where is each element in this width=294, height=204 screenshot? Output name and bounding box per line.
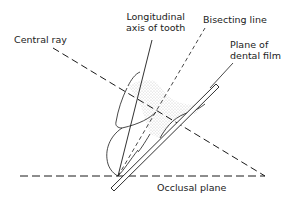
dental-film-label-line2: dental film xyxy=(230,50,281,61)
dental-film-label-line1: Plane of xyxy=(230,39,281,50)
longitudinal-axis-label: Longitudinal axis of tooth xyxy=(126,11,185,33)
central-ray-label: Central ray xyxy=(14,34,67,45)
bisecting-line xyxy=(118,28,205,176)
occlusal-plane-label: Occlusal plane xyxy=(157,182,226,193)
longitudinal-axis-label-line1: Longitudinal xyxy=(126,11,185,22)
dental-film-label: Plane of dental film xyxy=(230,39,281,61)
bisecting-line-label: Bisecting line xyxy=(203,14,267,25)
film-label-leader xyxy=(210,63,233,88)
central-ray-line xyxy=(53,48,265,176)
longitudinal-axis-label-line2: axis of tooth xyxy=(126,22,185,33)
